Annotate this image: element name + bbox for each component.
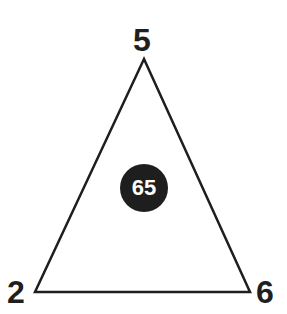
center-value-badge: 65 <box>120 164 168 212</box>
center-value: 65 <box>132 175 156 201</box>
vertex-label-bottom-left: 2 <box>7 276 25 308</box>
vertex-label-top: 5 <box>133 24 151 56</box>
vertex-label-bottom-right: 6 <box>256 276 274 308</box>
